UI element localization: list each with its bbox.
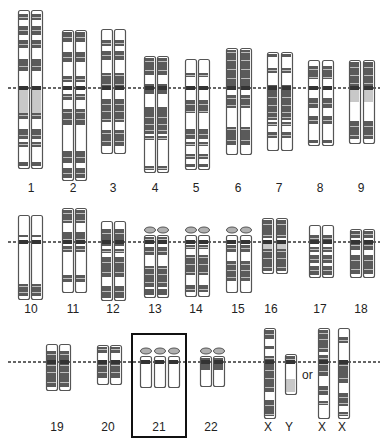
chromosome-3-copy-2 — [115, 30, 126, 154]
chromosome-6-copy-2 — [241, 49, 252, 155]
chromosome-label-18: 18 — [346, 302, 376, 316]
chromosome-22-copy-2 — [214, 348, 225, 387]
chromosome-9-copy-1 — [350, 61, 361, 144]
chromosome-7-copy-1 — [268, 53, 279, 151]
chromosome-5-copy-2 — [199, 60, 210, 170]
chromosome-18-copy-1 — [351, 230, 362, 278]
chromosome-9-copy-2 — [364, 61, 375, 144]
chromosome-label-11: 11 — [58, 302, 88, 316]
satellite-icon — [241, 227, 252, 233]
satellite-icon — [201, 348, 212, 354]
chromosome-18-copy-2 — [364, 230, 375, 278]
chromosome-canvas — [0, 0, 385, 447]
chromosome-label-20: 20 — [93, 420, 123, 434]
chromosome-7-copy-2 — [282, 53, 293, 151]
chromosome-13-copy-1 — [145, 227, 156, 298]
chromosome-label-2: 2 — [58, 181, 88, 195]
chromosome-label-6: 6 — [223, 181, 253, 195]
chromosome-label-15: 15 — [223, 302, 253, 316]
chromosome-15-copy-1 — [227, 227, 238, 293]
chromosome-x-copy-1 — [319, 329, 330, 419]
chromosome-2-copy-1 — [63, 31, 74, 181]
chromosome-14-copy-2 — [199, 227, 210, 297]
karyotype-diagram: 12345678910111213141516171819202122XYXXo… — [0, 0, 385, 447]
chromosome-13-copy-2 — [158, 227, 169, 298]
chromosome-label-22: 22 — [196, 420, 226, 434]
chromosome-label-12: 12 — [98, 302, 128, 316]
chromosome-label-4: 4 — [140, 181, 170, 195]
chromosome-12-copy-1 — [102, 222, 113, 301]
chromosome-x-copy-1 — [339, 329, 350, 419]
chromosome-19-copy-1 — [47, 345, 58, 391]
chromosome-1-copy-2 — [32, 11, 43, 169]
chromosome-label-7: 7 — [264, 181, 294, 195]
chromosome-8-copy-2 — [323, 61, 334, 146]
satellite-icon — [158, 227, 169, 233]
chromosome-17-copy-1 — [310, 226, 321, 278]
chromosome-2-copy-2 — [76, 31, 87, 181]
satellite-icon — [199, 227, 210, 233]
chromosome-label-10: 10 — [16, 302, 46, 316]
chromosome-16-copy-2 — [277, 219, 288, 274]
chromosome-label-16: 16 — [256, 302, 286, 316]
or-text: or — [302, 368, 313, 382]
chromosome-label-19: 19 — [42, 420, 72, 434]
satellite-icon — [227, 227, 238, 233]
chromosome-20-copy-2 — [111, 346, 122, 385]
chromosome-10-copy-1 — [19, 216, 30, 300]
satellite-icon — [186, 227, 197, 233]
chromosome-label-3: 3 — [98, 181, 128, 195]
chromosome-label-8: 8 — [305, 181, 335, 195]
chromosome-11-copy-1 — [63, 209, 74, 293]
chromosome-10-copy-2 — [32, 216, 43, 300]
chromosome-x-copy-1 — [265, 329, 276, 419]
satellite-icon — [214, 348, 225, 354]
chromosome-20-copy-1 — [98, 346, 109, 385]
chromosome-4-copy-1 — [145, 57, 156, 173]
chromosome-label-13: 13 — [140, 302, 170, 316]
chromosome-1-copy-1 — [19, 11, 30, 169]
chromosome-5-copy-1 — [186, 60, 197, 170]
chromosome-22-copy-1 — [201, 348, 212, 387]
chromosome-17-copy-2 — [323, 226, 334, 278]
chromosome-6-copy-1 — [227, 49, 238, 155]
trisomy-21-highlight-box — [131, 333, 187, 438]
chromosome-11-copy-2 — [76, 209, 87, 293]
chromosome-label-1: 1 — [16, 181, 46, 195]
chromosome-label-9: 9 — [346, 181, 376, 195]
chromosome-12-copy-2 — [115, 222, 126, 301]
chromosome-label-5: 5 — [181, 181, 211, 195]
chromosome-14-copy-1 — [186, 227, 197, 297]
chromosome-16-copy-1 — [263, 219, 274, 274]
chromosome-label-14: 14 — [181, 302, 211, 316]
chromosome-label-x: X — [327, 420, 357, 434]
satellite-icon — [145, 227, 156, 233]
chromosome-label-y: Y — [274, 420, 304, 434]
chromosome-y-copy-1 — [286, 355, 297, 395]
chromosome-4-copy-2 — [158, 57, 169, 173]
chromosome-3-copy-1 — [102, 30, 113, 154]
chromosome-label-17: 17 — [305, 302, 335, 316]
chromosome-8-copy-1 — [309, 61, 320, 146]
chromosome-19-copy-2 — [60, 345, 71, 391]
chromosome-15-copy-2 — [241, 227, 252, 293]
